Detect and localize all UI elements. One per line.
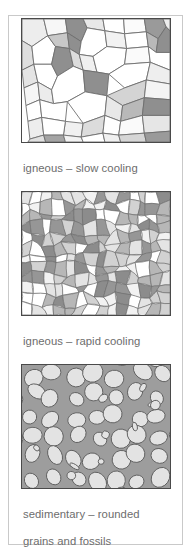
caption-line-2: grains and fossils bbox=[23, 535, 182, 549]
texture-plate-rounded-grains bbox=[21, 364, 171, 489]
panel-igneous-slow-cooling: igneous – slow cooling large interlockin… bbox=[9, 18, 182, 216]
caption-line-1: igneous – slow cooling bbox=[23, 162, 182, 176]
large-crystal-texture-svg bbox=[22, 19, 170, 142]
texture-plate-large-crystals bbox=[21, 18, 171, 143]
small-crystal-texture-svg bbox=[22, 192, 170, 315]
texture-plate-small-crystals bbox=[21, 191, 171, 316]
panel-sedimentary-rounded-grains: sedimentary – rounded grains and fossils bbox=[9, 364, 182, 556]
sediment-grain-small bbox=[97, 458, 103, 464]
panel-caption: sedimentary – rounded grains and fossils bbox=[9, 494, 182, 556]
caption-line-1: sedimentary – rounded bbox=[23, 508, 182, 522]
panel-igneous-rapid-cooling: igneous – rapid cooling small interlocki… bbox=[9, 191, 182, 389]
rounded-grain-texture-svg bbox=[22, 365, 170, 488]
figure-frame: igneous – slow cooling large interlockin… bbox=[8, 15, 183, 545]
caption-line-1: igneous – rapid cooling bbox=[23, 335, 182, 349]
